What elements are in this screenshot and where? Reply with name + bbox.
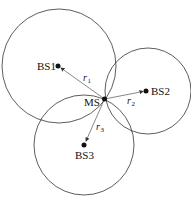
bs2-label: BS2 xyxy=(151,85,170,97)
bs2-point xyxy=(144,89,149,94)
r1-sub: 1 xyxy=(88,77,92,85)
r3-label: r xyxy=(96,121,100,132)
r1-label: r xyxy=(83,72,87,83)
r2-arrow xyxy=(105,92,144,100)
ms-label: MS xyxy=(84,96,100,108)
bs3-label: BS3 xyxy=(75,149,94,161)
r2-sub: 2 xyxy=(132,100,136,108)
r2-label: r xyxy=(127,95,131,106)
trilateration-diagram: BS1 BS2 BS3 MS r 1 r 2 r 3 xyxy=(0,0,191,202)
bs3-point xyxy=(82,143,87,148)
bs1-point xyxy=(56,64,61,69)
ms-point xyxy=(102,97,107,102)
bs1-label: BS1 xyxy=(37,60,56,72)
r3-sub: 3 xyxy=(101,126,105,134)
